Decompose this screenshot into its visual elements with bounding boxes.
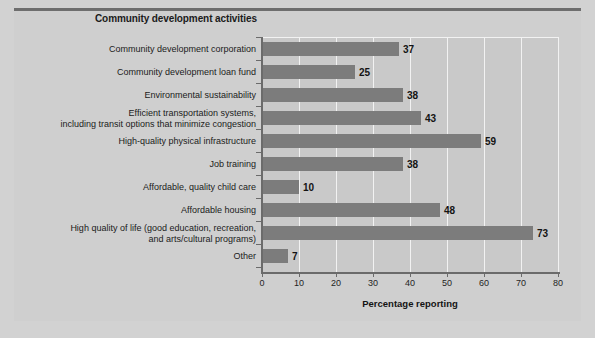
plot-area — [262, 37, 559, 272]
value-tick-label-30: 30 — [368, 278, 378, 288]
bar-value-label: 59 — [485, 136, 496, 147]
value-tick-20 — [336, 273, 337, 277]
category-tick — [256, 83, 261, 84]
bar-job-training — [262, 157, 403, 171]
value-tick-0 — [262, 273, 263, 277]
category-tick — [256, 175, 261, 176]
bar-value-label: 38 — [407, 159, 418, 170]
bar-value-label: 43 — [425, 113, 436, 124]
value-tick-80 — [558, 273, 559, 277]
bar-community-development-loan-fund — [262, 65, 355, 79]
category-tick — [256, 129, 261, 130]
bar-high-quality-physical-infrastructure — [262, 134, 481, 148]
value-tick-label-10: 10 — [294, 278, 304, 288]
top-divider — [14, 8, 581, 11]
value-tick-label-70: 70 — [516, 278, 526, 288]
category-tick — [256, 244, 261, 245]
bar-value-label: 7 — [292, 251, 298, 262]
value-tick-30 — [373, 273, 374, 277]
bar-value-label: 48 — [444, 205, 455, 216]
category-axis-line — [261, 37, 263, 273]
category-label: Efficient transportation systems, includ… — [60, 108, 256, 129]
category-tick — [256, 221, 261, 222]
category-tick — [256, 106, 261, 107]
value-tick-label-0: 0 — [259, 278, 264, 288]
category-tick — [256, 152, 261, 153]
chart-title: Community development activities — [95, 13, 257, 24]
value-tick-40 — [410, 273, 411, 277]
value-tick-label-40: 40 — [405, 278, 415, 288]
value-tick-label-50: 50 — [442, 278, 452, 288]
bar-affordable-housing — [262, 203, 440, 217]
category-label: Community development corporation — [109, 44, 256, 55]
bar-value-label: 10 — [303, 182, 314, 193]
value-tick-60 — [484, 273, 485, 277]
category-label: Other — [233, 251, 256, 262]
value-tick-label-20: 20 — [331, 278, 341, 288]
bar-value-label: 37 — [403, 44, 414, 55]
category-label: Community development loan fund — [117, 67, 256, 78]
category-label: High-quality physical infrastructure — [118, 136, 256, 147]
category-label: Job training — [209, 159, 256, 170]
bar-high-quality-of-life — [262, 226, 533, 240]
bar-efficient-transportation-systems — [262, 111, 421, 125]
category-tick — [256, 267, 261, 268]
bar-community-development-corporation — [262, 42, 399, 56]
category-tick — [256, 60, 261, 61]
value-tick-label-60: 60 — [479, 278, 489, 288]
value-tick-70 — [521, 273, 522, 277]
category-tick — [256, 37, 261, 38]
category-tick — [256, 198, 261, 199]
bar-value-label: 73 — [537, 228, 548, 239]
category-label: Environmental sustainability — [144, 90, 256, 101]
category-label: Affordable housing — [181, 205, 256, 216]
value-tick-label-80: 80 — [553, 278, 563, 288]
category-label: Affordable, quality child care — [143, 182, 256, 193]
chart-figure: Community development activities 0 — [0, 0, 595, 338]
bar-other — [262, 249, 288, 263]
bar-value-label: 38 — [407, 90, 418, 101]
value-tick-50 — [447, 273, 448, 277]
bar-affordable-quality-child-care — [262, 180, 299, 194]
bar-value-label: 25 — [359, 67, 370, 78]
x-axis-title: Percentage reporting — [362, 298, 458, 309]
value-tick-10 — [299, 273, 300, 277]
category-label: High quality of life (good education, re… — [70, 223, 256, 244]
bar-environmental-sustainability — [262, 88, 403, 102]
